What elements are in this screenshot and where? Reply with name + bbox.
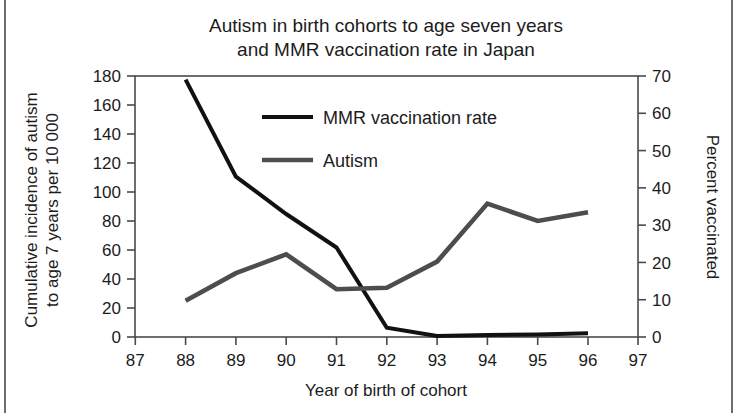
y-axis-title-line2: to age 7 years per 10 000 [43, 113, 62, 307]
y-tick-label-100: 100 [93, 183, 121, 202]
y-axis-left-ticks [127, 76, 135, 337]
y2-tick-label-10: 10 [652, 291, 671, 310]
x-tick-label-95: 95 [528, 351, 547, 370]
x-tick-label-91: 91 [327, 351, 346, 370]
chart-title-line1: Autism in birth cohorts to age seven yea… [209, 15, 563, 36]
y-tick-label-120: 120 [93, 154, 121, 173]
y-tick-label-20: 20 [102, 299, 121, 318]
y-tick-label-140: 140 [93, 125, 121, 144]
chart-title-line2: and MMR vaccination rate in Japan [237, 39, 535, 60]
y2-tick-label-40: 40 [652, 179, 671, 198]
x-tick-label-97: 97 [629, 351, 648, 370]
x-tick-label-96: 96 [579, 351, 598, 370]
y-tick-label-40: 40 [102, 270, 121, 289]
legend-label-autism: Autism [323, 151, 378, 171]
y2-axis-title: Percent vaccinated [703, 135, 722, 280]
y2-tick-label-50: 50 [652, 142, 671, 161]
y-axis-title-line1: Cumulative incidence of autism [22, 92, 41, 327]
x-axis-title: Year of birth of cohort [305, 381, 467, 400]
y-tick-label-0: 0 [112, 328, 121, 347]
y2-tick-label-60: 60 [652, 104, 671, 123]
y2-tick-label-70: 70 [652, 67, 671, 86]
y-tick-label-180: 180 [93, 67, 121, 86]
y-tick-label-80: 80 [102, 212, 121, 231]
x-tick-label-89: 89 [226, 351, 245, 370]
legend: MMR vaccination rate Autism [262, 108, 497, 171]
series-line-autism [186, 204, 588, 301]
y-tick-label-160: 160 [93, 96, 121, 115]
x-tick-label-90: 90 [277, 351, 296, 370]
y2-tick-label-20: 20 [652, 254, 671, 273]
x-axis-ticks [135, 337, 638, 345]
y-axis-right-ticks [638, 76, 646, 337]
y-tick-label-60: 60 [102, 241, 121, 260]
y2-tick-label-0: 0 [652, 328, 661, 347]
x-tick-label-92: 92 [377, 351, 396, 370]
autism-mmr-line-chart: Autism in birth cohorts to age seven yea… [0, 0, 743, 413]
y2-tick-label-30: 30 [652, 216, 671, 235]
x-tick-label-88: 88 [176, 351, 195, 370]
x-tick-label-94: 94 [478, 351, 497, 370]
x-tick-label-87: 87 [126, 351, 145, 370]
figure-panel: Autism in birth cohorts to age seven yea… [0, 0, 743, 413]
x-tick-label-93: 93 [428, 351, 447, 370]
legend-label-mmr-vaccination-rate: MMR vaccination rate [323, 108, 497, 128]
